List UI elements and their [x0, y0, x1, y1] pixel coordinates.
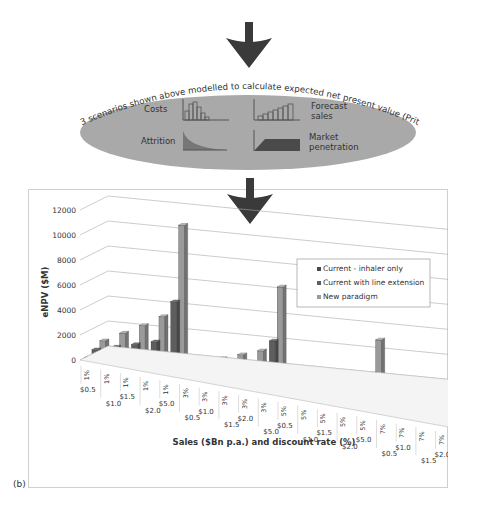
- x-sales-label: $1.5: [316, 429, 332, 437]
- x-sales-label: $2.0: [435, 451, 448, 459]
- x-rate-label: 1%: [103, 374, 111, 384]
- x-sales-label: $1.0: [395, 444, 411, 452]
- x-axis-title: Sales ($Bn p.a.) and discount rate (%): [173, 437, 356, 447]
- y-tick-label: 6000: [57, 281, 76, 290]
- ellipse-caption-text: 3 scenarios shown above modelled to calc…: [70, 62, 422, 127]
- x-rate-label: 1%: [122, 377, 130, 387]
- x-sales-label: $5.0: [159, 400, 175, 408]
- x-rate-label: 5%: [359, 420, 367, 430]
- x-rate-label: 1%: [142, 381, 150, 391]
- legend-swatch-line-extension: [317, 281, 321, 285]
- penetration-label: penetration: [309, 142, 359, 152]
- forecast-sales-label: Forecast sales: [311, 101, 347, 121]
- costs-label: Costs: [144, 104, 167, 114]
- x-rate-label: 7%: [379, 424, 387, 434]
- y-tick-label: 8000: [57, 256, 76, 265]
- y-axis-title: eNPV ($M): [40, 266, 50, 317]
- legend-swatch-new-paradigm: [317, 295, 321, 299]
- legend-new-paradigm: New paradigm: [323, 292, 378, 301]
- x-rate-label: 1%: [83, 370, 91, 380]
- x-rate-label: 5%: [280, 406, 288, 416]
- y-tick-label: 4000: [57, 306, 76, 315]
- market-label: Market: [309, 132, 338, 142]
- panel-label: (b): [13, 479, 26, 489]
- x-rate-label: 3%: [201, 392, 209, 402]
- x-sales-label: $0.5: [277, 422, 293, 430]
- x-rate-label: 1%: [162, 384, 170, 394]
- attrition-label: Attrition: [141, 136, 175, 146]
- decay-curve-icon: [182, 130, 228, 152]
- y-tick-label: 0: [71, 356, 76, 365]
- x-sales-label: $1.0: [198, 408, 214, 416]
- x-rate-label: 3%: [221, 395, 229, 405]
- x-rate-label: 3%: [182, 388, 190, 398]
- bar-chart-increasing-icon: [253, 99, 301, 121]
- x-rate-label: 7%: [438, 435, 446, 445]
- y-tick-label: 2000: [57, 331, 76, 340]
- x-rate-label: 7%: [418, 431, 426, 441]
- forecast-label: Forecast: [311, 101, 347, 111]
- y-tick-label: 12000: [52, 206, 76, 215]
- legend-line-extension: Current with line extension: [323, 278, 425, 287]
- x-sales-label: $0.5: [80, 386, 96, 394]
- x-sales-label: $5.0: [356, 436, 372, 444]
- legend-inhaler: Current - inhaler only: [323, 264, 403, 273]
- x-rate-label: 3%: [260, 402, 268, 412]
- x-rate-label: 7%: [398, 428, 406, 438]
- sales-label: sales: [311, 111, 333, 121]
- svg-text:3 scenarios shown above modell: 3 scenarios shown above modelled to calc…: [70, 62, 422, 127]
- x-sales-label: $2.0: [238, 415, 254, 423]
- bar-chart-decreasing-icon: [182, 99, 230, 121]
- ellipse-caption: 3 scenarios shown above modelled to calc…: [70, 62, 430, 132]
- x-rate-label: 3%: [241, 399, 249, 409]
- enpv-3d-bar-chart: 020004000600080001000012000 eNPV ($M) Sa…: [28, 189, 448, 487]
- y-tick-label: 10000: [52, 231, 76, 240]
- x-rate-label: 5%: [319, 413, 327, 423]
- chart-legend: Current - inhaler only Current with line…: [297, 259, 430, 307]
- y-axis: 020004000600080001000012000: [52, 206, 76, 365]
- x-rate-label: 5%: [300, 410, 308, 420]
- x-sales-label: $1.5: [119, 393, 135, 401]
- legend-swatch-inhaler: [317, 267, 321, 271]
- x-rate-label: 5%: [339, 417, 347, 427]
- ramp-plateau-icon: [253, 130, 301, 152]
- market-penetration-label: Market penetration: [309, 132, 359, 152]
